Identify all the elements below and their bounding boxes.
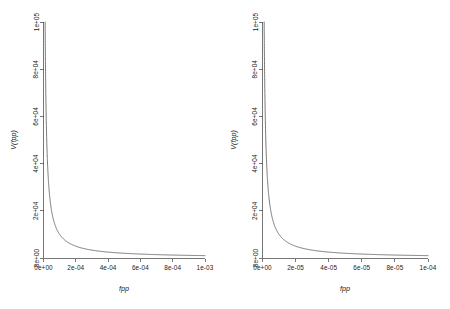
right-data-curve — [264, 22, 428, 256]
figure-container: 0e+00 2e+04 4e+04 6e+04 8e+04 1e+05 0e+0… — [0, 0, 450, 309]
right-xtick-label-0: 0e+00 — [253, 264, 272, 271]
left-xtick-label-5: 1e-03 — [197, 264, 214, 271]
right-y-tick-labels: 0e+00 2e+04 4e+04 6e+04 8e+04 1e+05 — [252, 12, 259, 267]
left-ytick-label-1: 2e+04 — [33, 201, 40, 220]
left-x-tick-labels: 0e+00 2e-04 4e-04 6e-04 8e-04 1e-03 — [34, 264, 213, 271]
right-y-ticks — [259, 22, 263, 258]
left-ytick-label-2: 4e+04 — [33, 154, 40, 173]
right-x-ticks — [263, 259, 429, 263]
plot-panel-right: 0e+00 2e+04 4e+04 6e+04 8e+04 1e+05 0e+0… — [225, 0, 450, 309]
left-y-axis-title: V(fpp) — [9, 130, 18, 150]
left-xtick-label-1: 2e-04 — [67, 264, 84, 271]
right-x-axis-title: fpp — [340, 284, 350, 293]
right-panel-svg: 0e+00 2e+04 4e+04 6e+04 8e+04 1e+05 0e+0… — [225, 0, 450, 309]
plot-panel-left: 0e+00 2e+04 4e+04 6e+04 8e+04 1e+05 0e+0… — [0, 0, 225, 309]
right-ytick-label-3: 6e+04 — [252, 107, 259, 126]
right-ytick-label-5: 1e+05 — [252, 12, 259, 31]
right-xtick-label-2: 4e-05 — [320, 264, 337, 271]
left-x-axis-title: fpp — [119, 284, 129, 293]
right-y-axis-title: V(fpp) — [229, 130, 238, 150]
left-panel-svg: 0e+00 2e+04 4e+04 6e+04 8e+04 1e+05 0e+0… — [0, 0, 225, 309]
right-xtick-label-1: 2e-05 — [287, 264, 304, 271]
left-ytick-label-3: 6e+04 — [33, 107, 40, 126]
right-x-tick-labels: 0e+00 2e-05 4e-05 6e-05 8e-05 1e-04 — [253, 264, 436, 271]
left-xtick-label-2: 4e-04 — [100, 264, 117, 271]
left-y-tick-labels: 0e+00 2e+04 4e+04 6e+04 8e+04 1e+05 — [33, 12, 40, 267]
left-xtick-label-3: 6e-04 — [132, 264, 149, 271]
left-xtick-label-0: 0e+00 — [34, 264, 53, 271]
left-ytick-label-5: 1e+05 — [33, 12, 40, 31]
right-xtick-label-4: 8e-05 — [386, 264, 403, 271]
right-xtick-label-5: 1e-04 — [420, 264, 437, 271]
left-xtick-label-4: 8e-04 — [164, 264, 181, 271]
left-data-curve — [45, 22, 205, 256]
right-ytick-label-4: 8e+04 — [252, 60, 259, 79]
left-y-ticks — [40, 22, 44, 258]
right-ytick-label-2: 4e+04 — [252, 154, 259, 173]
left-ytick-label-4: 8e+04 — [33, 60, 40, 79]
right-xtick-label-3: 6e-05 — [353, 264, 370, 271]
right-ytick-label-1: 2e+04 — [252, 201, 259, 220]
left-x-ticks — [44, 259, 206, 263]
